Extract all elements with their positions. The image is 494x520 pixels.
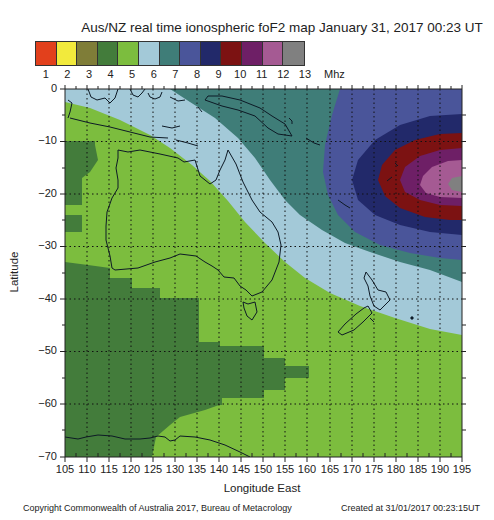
x-tick-label: 195: [447, 463, 477, 475]
y-tick-label: −40: [17, 292, 57, 304]
fof2-map: [0, 0, 494, 520]
y-tick-label: −30: [17, 239, 57, 251]
x-axis-title: Longitude East: [0, 482, 494, 494]
y-tick-label: −70: [17, 450, 57, 462]
created-timestamp: Created at 31/01/2017 00:23:15UT: [341, 503, 480, 513]
copyright-text: Copyright Commonwealth of Australia 2017…: [23, 503, 292, 513]
y-tick-label: −50: [17, 344, 57, 356]
y-tick-label: 0: [17, 82, 57, 94]
y-tick-label: −60: [17, 397, 57, 409]
y-tick-label: −10: [17, 134, 57, 146]
y-axis-title: Latitude: [8, 252, 20, 293]
y-tick-label: −20: [17, 187, 57, 199]
